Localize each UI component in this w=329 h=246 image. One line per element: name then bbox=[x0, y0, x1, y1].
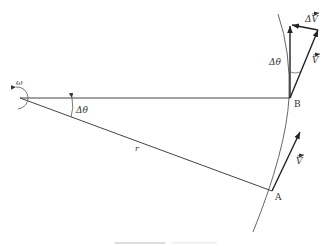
angle-arc-b bbox=[290, 72, 300, 73]
caption-bar-2 bbox=[172, 242, 217, 244]
diagram-svg: ω Δθ r B A Δθ ΔV V V bbox=[0, 0, 329, 246]
circular-path-arc bbox=[253, 14, 289, 232]
point-a-label: A bbox=[274, 192, 282, 202]
v-at-b-label: V bbox=[312, 55, 320, 65]
caption-bar bbox=[115, 242, 165, 244]
omega-label: ω bbox=[16, 78, 23, 87]
diagram-canvas: ω Δθ r B A Δθ ΔV V V bbox=[0, 0, 329, 246]
delta-theta-b-label: Δθ bbox=[268, 57, 281, 67]
v-at-a-label: V bbox=[296, 156, 304, 166]
angle-arc-center bbox=[71, 98, 73, 117]
delta-theta-center-label: Δθ bbox=[75, 105, 88, 115]
point-b-label: B bbox=[294, 99, 301, 109]
delta-v-arrow bbox=[292, 25, 318, 30]
delta-v-label: ΔV bbox=[304, 14, 319, 24]
radius-line-oa bbox=[20, 98, 272, 191]
radius-label: r bbox=[135, 144, 140, 153]
